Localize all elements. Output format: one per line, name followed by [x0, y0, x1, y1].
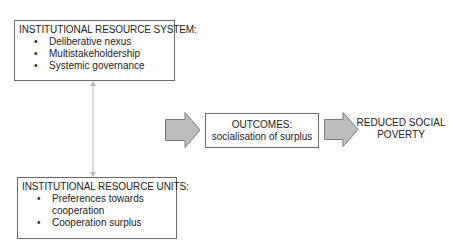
- outcomes-box: OUTCOMES: socialisation of surplus: [205, 113, 319, 148]
- list-item-continuation: cooperation: [22, 205, 172, 217]
- outcomes-text: socialisation of surplus: [206, 131, 318, 143]
- outcomes-title: OUTCOMES:: [206, 119, 318, 131]
- resource-units-list: •Preferences towards cooperation •Cooper…: [22, 193, 172, 229]
- bullet-icon: •: [34, 48, 38, 60]
- list-item: •Multistakeholdership: [19, 48, 170, 60]
- bullet-icon: •: [37, 217, 41, 229]
- list-item: •Cooperation surplus: [22, 217, 172, 229]
- resource-system-title: INSTITUTIONAL RESOURCE SYSTEM:: [19, 24, 170, 36]
- result-label: REDUCED SOCIAL POVERTY: [356, 117, 446, 141]
- resource-units-title: INSTITUTIONAL RESOURCE UNITS:: [22, 181, 172, 193]
- resource-system-box: INSTITUTIONAL RESOURCE SYSTEM: •Delibera…: [14, 20, 175, 81]
- list-item: •Deliberative nexus: [19, 36, 170, 48]
- resource-units-box: INSTITUTIONAL RESOURCE UNITS: •Preferenc…: [17, 177, 177, 239]
- bullet-icon: •: [34, 36, 38, 48]
- list-item: •Systemic governance: [19, 60, 170, 72]
- resource-system-list: •Deliberative nexus •Multistakeholdershi…: [19, 36, 170, 72]
- block-arrow-right-icon: [165, 112, 201, 148]
- block-arrow-right-icon: [324, 112, 359, 147]
- bullet-icon: •: [34, 60, 38, 72]
- bidirectional-connector-icon: [89, 81, 97, 177]
- bullet-icon: •: [37, 193, 41, 205]
- list-item: •Preferences towards: [22, 193, 172, 205]
